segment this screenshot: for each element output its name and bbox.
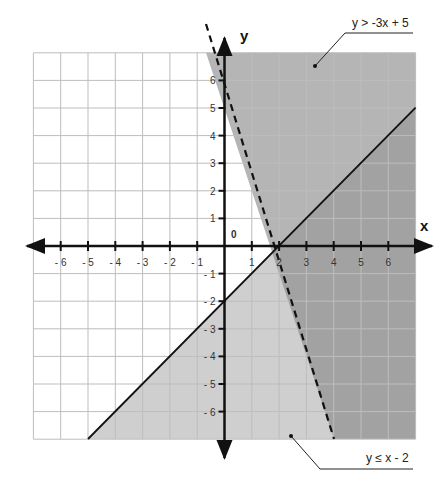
- y-tick-label: 3: [210, 158, 216, 169]
- y-tick-label: 2: [210, 186, 216, 197]
- x-tick-label: 6: [386, 257, 392, 268]
- x-tick-label: 2: [276, 257, 282, 268]
- y-tick-label: - 4: [204, 351, 216, 362]
- y-tick-label: - 3: [204, 324, 216, 335]
- x-tick-label: 4: [331, 257, 337, 268]
- x-tick-label: - 5: [82, 257, 94, 268]
- x-axis-label: x: [420, 217, 429, 234]
- origin-label: 0: [231, 229, 237, 240]
- y-tick-label: - 5: [204, 379, 216, 390]
- inequality-graph: - 6- 5- 4- 3- 2- 1123456654321- 1- 2- 3-…: [0, 0, 447, 486]
- y-tick-label: - 6: [204, 407, 216, 418]
- y-axis-label: y: [240, 27, 249, 44]
- y-tick-label: 4: [210, 131, 216, 142]
- x-tick-label: - 2: [164, 257, 176, 268]
- y-tick-label: 6: [210, 75, 216, 86]
- y-tick-label: - 1: [204, 269, 216, 280]
- x-tick-label: - 3: [137, 257, 149, 268]
- inequality-label-top: y > -3x + 5: [352, 16, 409, 30]
- y-tick-label: - 2: [204, 296, 216, 307]
- x-tick-label: 1: [249, 257, 255, 268]
- x-tick-label: - 1: [191, 257, 203, 268]
- inequality-label-bottom: y ≤ x - 2: [366, 451, 409, 465]
- x-tick-label: - 6: [55, 257, 67, 268]
- x-tick-label: - 4: [109, 257, 121, 268]
- x-tick-label: 3: [304, 257, 310, 268]
- y-tick-label: 5: [210, 103, 216, 114]
- x-tick-label: 5: [358, 257, 364, 268]
- y-tick-label: 1: [210, 213, 216, 224]
